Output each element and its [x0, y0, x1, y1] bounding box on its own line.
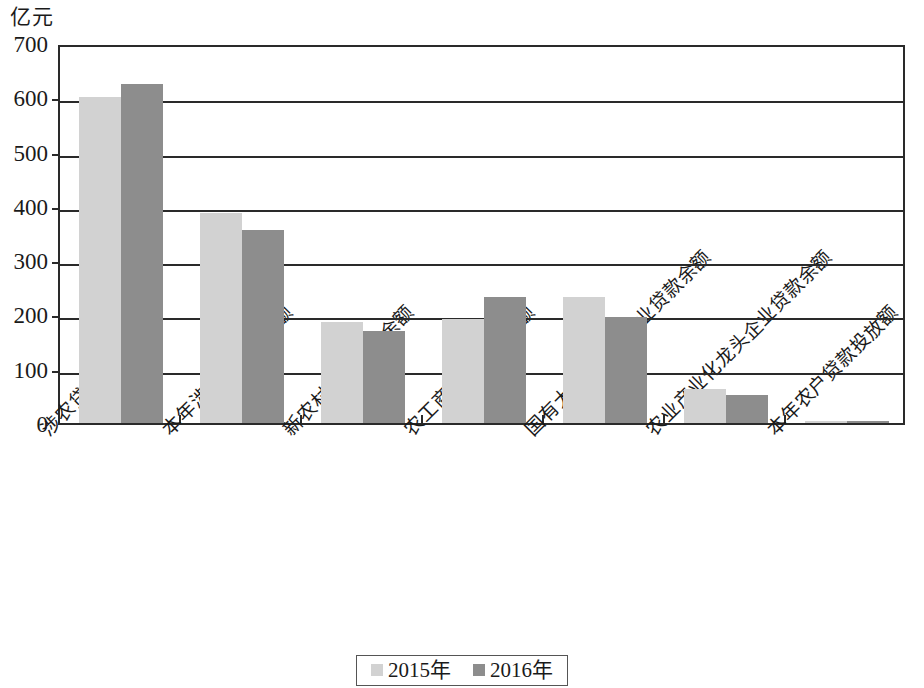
- legend-item[interactable]: 2015年: [371, 659, 451, 681]
- legend-label: 2016年: [490, 659, 553, 681]
- bar-group: [563, 47, 647, 423]
- bar-group: [684, 47, 768, 423]
- bar-group: [805, 47, 889, 423]
- bar-2016年: [242, 230, 284, 423]
- y-axis-unit-label: 亿元: [10, 5, 53, 29]
- bar-2016年: [726, 395, 768, 423]
- y-tick-label: 500: [0, 142, 48, 165]
- legend-item[interactable]: 2016年: [473, 659, 553, 681]
- y-tick-label: 700: [0, 33, 48, 56]
- y-tick-label: 100: [0, 359, 48, 382]
- x-axis-category-labels: 涉农贷款余额本年涉农贷款投放额新农村建设贷款余额农工商公司贷款余额国有大中型涉农…: [0, 425, 924, 635]
- y-tick-label: 400: [0, 196, 48, 219]
- bar-2016年: [605, 317, 647, 423]
- bar-2015年: [684, 389, 726, 423]
- bar-2015年: [200, 213, 242, 423]
- chart-legend: 2015年2016年: [356, 655, 568, 686]
- bar-2016年: [847, 421, 889, 423]
- bar-2016年: [484, 297, 526, 423]
- y-tick-label: 300: [0, 250, 48, 273]
- bar-2015年: [805, 421, 847, 423]
- y-tick-label: 200: [0, 304, 48, 327]
- legend-label: 2015年: [388, 659, 451, 681]
- bar-2015年: [321, 322, 363, 423]
- bar-chart-figure: 亿元 7006005004003002001000 涉农贷款余额本年涉农贷款投放…: [0, 0, 924, 688]
- bar-2015年: [563, 297, 605, 423]
- y-tick-label: 600: [0, 87, 48, 110]
- legend-swatch-2016: [473, 664, 485, 676]
- bar-2016年: [121, 84, 163, 423]
- bar-2016年: [363, 331, 405, 423]
- plot-area: [58, 45, 905, 425]
- bar-group: [79, 47, 163, 423]
- bar-group: [321, 47, 405, 423]
- legend-swatch-2015: [371, 664, 383, 676]
- bar-2015年: [79, 97, 121, 423]
- bars-layer: [60, 47, 903, 423]
- bar-2015年: [442, 319, 484, 423]
- bar-group: [200, 47, 284, 423]
- bar-group: [442, 47, 526, 423]
